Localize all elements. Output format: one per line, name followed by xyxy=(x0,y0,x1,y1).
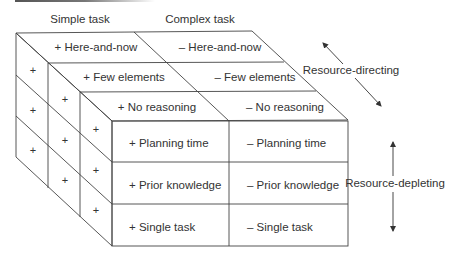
cell-complex-few-elements: – Few elements xyxy=(214,71,295,83)
cell-simple-no-reasoning: + No reasoning xyxy=(118,101,196,113)
cell-simple-planning-time: + Planning time xyxy=(129,137,209,149)
task-complexity-cube: Simple task Complex task + Here-and-now … xyxy=(0,0,458,261)
header-complex-task: Complex task xyxy=(165,13,235,25)
svg-text:+: + xyxy=(93,164,99,176)
svg-text:+: + xyxy=(93,204,99,216)
cell-complex-prior-knowledge: – Prior knowledge xyxy=(247,179,339,191)
cell-complex-here-and-now: – Here-and-now xyxy=(179,41,262,53)
resource-depleting-label: Resource-depleting xyxy=(345,177,445,189)
cell-complex-planning-time: – Planning time xyxy=(247,137,326,149)
svg-text:+: + xyxy=(30,144,36,156)
cell-simple-here-and-now: + Here-and-now xyxy=(55,41,138,53)
svg-text:+: + xyxy=(93,123,99,135)
svg-text:+: + xyxy=(62,134,68,146)
cell-simple-single-task: + Single task xyxy=(129,221,195,233)
cell-simple-few-elements: + Few elements xyxy=(83,71,165,83)
cell-simple-prior-knowledge: + Prior knowledge xyxy=(129,179,221,191)
side-face-symbols: + + + + + + + + + xyxy=(30,64,99,216)
svg-text:+: + xyxy=(62,174,68,186)
header-simple-task: Simple task xyxy=(50,13,110,25)
svg-text:+: + xyxy=(62,93,68,105)
resource-directing-label: Resource-directing xyxy=(303,64,400,76)
svg-text:+: + xyxy=(30,64,36,76)
cell-complex-no-reasoning: – No reasoning xyxy=(246,101,324,113)
svg-text:+: + xyxy=(30,104,36,116)
cell-complex-single-task: – Single task xyxy=(247,221,313,233)
